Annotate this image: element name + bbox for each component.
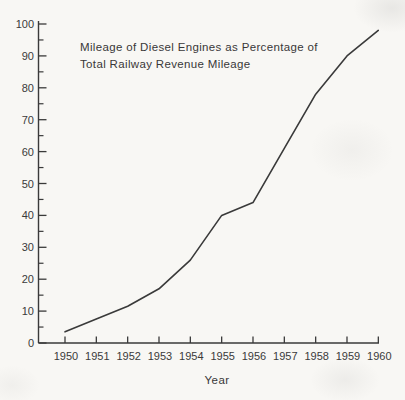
diesel-mileage-figure: 0102030405060708090100195019511952195319… bbox=[0, 0, 405, 400]
y-axis-tick-label: 10 bbox=[22, 305, 34, 317]
chart-title: Mileage of Diesel Engines as Percentage … bbox=[80, 39, 318, 73]
y-axis-tick-label: 60 bbox=[22, 146, 34, 158]
y-axis-tick-label: 0 bbox=[28, 337, 34, 349]
x-axis-tick-label: 1957 bbox=[273, 350, 297, 362]
y-axis-tick-label: 40 bbox=[22, 209, 34, 221]
chart-title-line2: Total Railway Revenue Mileage bbox=[80, 56, 318, 73]
y-axis-tick-label: 30 bbox=[22, 241, 34, 253]
x-axis-tick-label: 1950 bbox=[54, 350, 78, 362]
x-axis-tick-label: 1959 bbox=[336, 350, 360, 362]
y-axis-tick-label: 80 bbox=[22, 82, 34, 94]
y-axis-tick-label: 100 bbox=[16, 18, 34, 30]
x-axis-title: Year bbox=[204, 374, 229, 386]
x-axis-tick-label: 1955 bbox=[210, 350, 234, 362]
x-axis-tick-label: 1951 bbox=[85, 350, 109, 362]
data-line-series bbox=[65, 30, 378, 331]
y-axis-tick-label: 90 bbox=[22, 50, 34, 62]
x-axis-tick-label: 1956 bbox=[242, 350, 266, 362]
y-axis-tick-label: 50 bbox=[22, 178, 34, 190]
chart-title-line1: Mileage of Diesel Engines as Percentage … bbox=[80, 39, 318, 56]
x-axis-tick-label: 1953 bbox=[148, 350, 172, 362]
x-axis-tick-label: 1954 bbox=[179, 350, 203, 362]
x-axis-tick-label: 1958 bbox=[304, 350, 328, 362]
y-axis-tick-label: 70 bbox=[22, 114, 34, 126]
x-axis-tick-label: 1952 bbox=[116, 350, 140, 362]
x-axis-tick-label: 1960 bbox=[367, 350, 391, 362]
y-axis-tick-label: 20 bbox=[22, 273, 34, 285]
